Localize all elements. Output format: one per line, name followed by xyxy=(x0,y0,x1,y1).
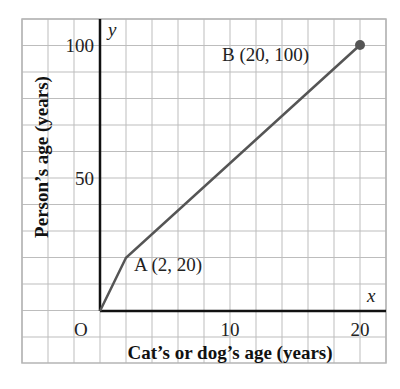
y-axis-variable: y xyxy=(106,19,117,40)
chart: y x O 100 50 10 20 A (2, 20) B (20, 100)… xyxy=(0,0,400,389)
x-tick-10: 10 xyxy=(221,319,240,340)
point-a-label: A (2, 20) xyxy=(134,254,202,276)
y-tick-50: 50 xyxy=(75,168,94,189)
x-axis-label: Cat’s or dog’s age (years) xyxy=(127,342,332,364)
point-b-label: B (20, 100) xyxy=(222,44,309,66)
origin-label: O xyxy=(74,319,88,340)
point-b-marker xyxy=(355,40,365,50)
x-tick-20: 20 xyxy=(351,319,370,340)
y-axis-label: Person’s age (years) xyxy=(31,76,53,238)
x-axis-variable: x xyxy=(366,285,376,306)
y-tick-100: 100 xyxy=(66,35,95,56)
